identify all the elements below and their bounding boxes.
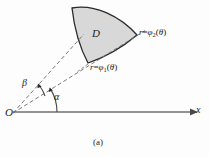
angle-label-alpha: α	[54, 92, 59, 102]
outer-curve-equation: r=φ2(θ)	[139, 28, 166, 38]
x-axis-label: x	[196, 105, 200, 115]
region-D-shape	[72, 7, 137, 63]
figure-container: D O x α β r=φ2(θ) r=φ1(θ) (a)	[0, 0, 209, 157]
ray-theta-beta	[13, 34, 84, 113]
leader-inner-curve	[77, 64, 88, 72]
inner-curve-equation: r=φ1(θ)	[90, 63, 117, 73]
origin-label: O	[5, 107, 13, 118]
diagram-canvas	[0, 0, 209, 157]
angle-label-beta: β	[22, 78, 27, 88]
inner-eq-close-paren: )	[114, 62, 117, 72]
region-label-D: D	[92, 28, 100, 39]
figure-caption: (a)	[93, 138, 103, 147]
outer-eq-close-paren: )	[163, 27, 166, 37]
